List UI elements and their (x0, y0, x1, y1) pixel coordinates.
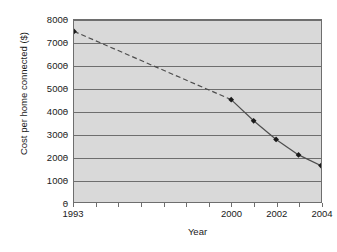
x-tick-mark (141, 203, 142, 207)
x-tick-mark (209, 203, 210, 207)
data-series-line (74, 20, 321, 202)
series-segment (299, 155, 321, 166)
data-point-marker (318, 163, 321, 169)
series-segment (231, 100, 253, 121)
x-tick-mark (299, 203, 300, 207)
series-segment (74, 31, 231, 99)
series-segment (254, 121, 276, 140)
y-tick-mark (64, 157, 68, 158)
x-axis-tick-labels: 1993200020022004 (0, 208, 337, 224)
x-axis-title: Year (73, 226, 322, 237)
y-tick-mark (64, 111, 68, 112)
y-tick-mark (64, 180, 68, 181)
y-tick-mark (64, 203, 68, 204)
x-tick-label: 2002 (266, 208, 287, 219)
plot-area (73, 19, 322, 203)
y-tick-mark (64, 19, 68, 20)
x-tick-mark (254, 203, 255, 207)
x-tick-mark (186, 203, 187, 207)
series-segment (276, 139, 298, 154)
x-tick-mark (118, 203, 119, 207)
y-tick-mark (64, 42, 68, 43)
x-tick-mark (164, 203, 165, 207)
y-tick-mark (64, 65, 68, 66)
data-point-marker (74, 29, 77, 35)
x-tick-label: 2004 (311, 208, 332, 219)
x-tick-mark (277, 203, 278, 207)
x-tick-mark (96, 203, 97, 207)
x-tick-mark (231, 203, 232, 207)
x-tick-label: 1993 (62, 208, 83, 219)
y-tick-mark (64, 134, 68, 135)
x-tick-label: 2000 (221, 208, 242, 219)
chart-figure: Cost per home connected ($) 010002000300… (0, 0, 337, 252)
x-tick-mark (73, 203, 74, 207)
x-tick-mark (322, 203, 323, 207)
y-tick-mark (64, 88, 68, 89)
